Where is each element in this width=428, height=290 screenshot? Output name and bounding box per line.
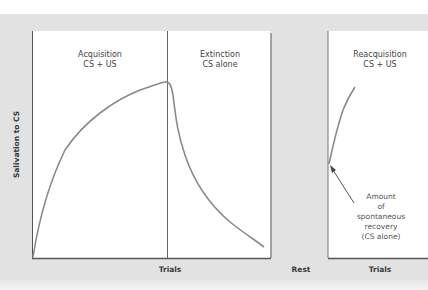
reacquisition-curve [329, 87, 355, 164]
x-axis-label-trials-1: Trials [150, 265, 190, 274]
acquisition-curve [33, 82, 165, 257]
extinction-curve [165, 82, 264, 247]
annotation-line: (CS alone) [341, 232, 421, 242]
phase-label-extinction: Extinction CS alone [180, 50, 260, 70]
phase-condition: CS + US [60, 60, 140, 70]
phase-label-reacquisition: Reacquisition CS + US [340, 50, 420, 70]
y-axis-label: Salivation to CS [12, 105, 21, 185]
phase-condition: CS + US [340, 60, 420, 70]
phase-title: Extinction [180, 50, 260, 60]
phase-title: Reacquisition [340, 50, 420, 60]
phase-label-acquisition: Acquisition CS + US [60, 50, 140, 70]
x-axis-label-rest: Rest [281, 265, 321, 274]
annotation-line: Amount [341, 192, 421, 202]
x-axis-label-trials-2: Trials [360, 265, 400, 274]
phase-title: Acquisition [60, 50, 140, 60]
arrow-head-icon [330, 165, 336, 173]
annotation-line: spontaneous [341, 212, 421, 222]
annotation-line: recovery [341, 222, 421, 232]
spontaneous-recovery-annotation: Amount of spontaneous recovery (CS alone… [341, 192, 421, 242]
annotation-line: of [341, 202, 421, 212]
phase-condition: CS alone [180, 60, 260, 70]
chart-plot [0, 0, 428, 290]
